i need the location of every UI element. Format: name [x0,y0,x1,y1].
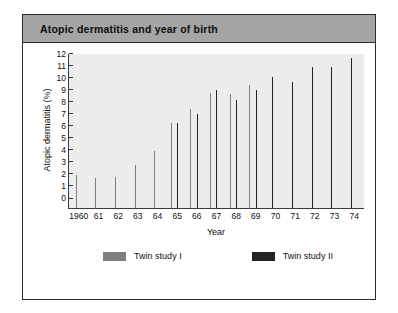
y-tick: 7 [52,109,69,119]
x-tick-label: 64 [153,211,162,221]
x-tick-label: 61 [94,211,103,221]
y-tick-label: 11 [52,61,66,71]
y-tick: 0 [52,193,69,203]
y-tick: 8 [52,97,69,107]
bar-group [89,54,109,208]
legend-label: Twin study II [283,251,333,261]
x-tick-label: 1960 [69,211,88,221]
y-tick-label: 12 [52,49,66,59]
bar-group [305,54,325,208]
y-tick: 6 [52,121,69,131]
bar-group [108,54,128,208]
x-tick-label: 65 [172,211,181,221]
bar-group [187,54,207,208]
y-tick-label: 5 [52,133,66,143]
x-tick-label: 70 [271,211,280,221]
y-tick: 4 [52,145,69,155]
x-tick-label: 72 [310,211,319,221]
y-tick-label: 3 [52,157,66,167]
y-tick: 11 [52,61,69,71]
x-tick-label: 66 [192,211,201,221]
x-tick-label: 73 [330,211,339,221]
bar-group [226,54,246,208]
legend-item[interactable]: Twin study I [103,251,182,261]
chart-legend: Twin study ITwin study II [68,251,368,261]
y-axis-title: Atopic dermatitis (%) [42,60,52,200]
y-tick-label: 2 [52,169,66,179]
bar-group [167,54,187,208]
bar-group [246,54,266,208]
y-tick: 10 [52,73,69,83]
x-tick-label: 71 [290,211,299,221]
y-tick-label: 6 [52,121,66,131]
y-tick-label: 10 [52,73,66,83]
bar-group [344,54,364,208]
chart-region: Atopic dermatitis (%) 0123456789101112 1… [23,43,375,301]
bars-layer [69,54,364,208]
bar-group [266,54,286,208]
y-tick-label: 0 [52,193,66,203]
bar-group [207,54,227,208]
x-tick-label: 68 [231,211,240,221]
y-tick-label: 7 [52,109,66,119]
bar-group [148,54,168,208]
y-tick-label: 1 [52,181,66,191]
legend-swatch-icon [252,252,275,261]
y-tick: 5 [52,133,69,143]
x-tick-label: 74 [349,211,358,221]
legend-label: Twin study I [134,251,182,261]
x-tick-label: 67 [212,211,221,221]
y-tick: 12 [52,49,69,59]
bar-group [325,54,345,208]
figure-card: Atopic dermatitis and year of birth Atop… [22,14,376,300]
y-tick: 3 [52,157,69,167]
x-tick-label: 69 [251,211,260,221]
bar-group [128,54,148,208]
chart-title-bar: Atopic dermatitis and year of birth [23,15,375,43]
legend-item[interactable]: Twin study II [252,251,333,261]
y-tick-label: 9 [52,85,66,95]
y-tick-label: 8 [52,97,66,107]
bar-group [69,54,89,208]
y-tick: 1 [52,181,69,191]
y-tick-label: 4 [52,145,66,155]
plot-area: 0123456789101112 19606162636465666768697… [68,54,364,209]
bar-group [285,54,305,208]
legend-swatch-icon [103,252,126,261]
page-title: Atopic dermatitis and year of birth [40,23,218,35]
x-tick-label: 63 [133,211,142,221]
y-tick: 2 [52,169,69,179]
y-tick: 9 [52,85,69,95]
x-tick-label: 62 [113,211,122,221]
x-axis-title: Year [68,227,364,237]
